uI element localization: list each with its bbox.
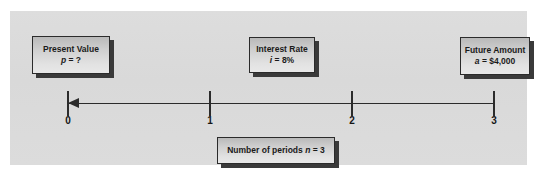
tick-label-3: 3 <box>484 115 504 126</box>
interest-rate-title: Interest Rate <box>256 44 308 55</box>
interest-rate-value: 8% <box>282 55 294 65</box>
present-value-equation: p = ? <box>61 55 81 66</box>
present-value-box: Present Value p = ? <box>32 36 110 74</box>
future-amount-title: Future Amount <box>465 45 526 56</box>
timeline-axis <box>67 103 493 104</box>
tick-mark-2 <box>351 91 353 116</box>
interest-rate-relation: = <box>272 55 282 65</box>
interest-rate-box: Interest Rate i = 8% <box>249 37 315 73</box>
number-of-periods-relation: = <box>310 145 320 155</box>
future-amount-box: Future Amount a = $4,000 <box>460 37 530 75</box>
tick-mark-3 <box>493 91 495 116</box>
number-of-periods-equation: Number of periods n = 3 <box>227 145 325 156</box>
present-value-value: ? <box>76 55 81 65</box>
present-value-title: Present Value <box>43 44 99 55</box>
tick-label-0: 0 <box>58 115 78 126</box>
tick-mark-1 <box>209 91 211 116</box>
number-of-periods-value: 3 <box>320 145 325 155</box>
present-value-relation: = <box>66 55 76 65</box>
figure-panel: Present Value p = ? Interest Rate i = 8%… <box>10 11 527 165</box>
number-of-periods-label: Number of periods <box>227 145 305 155</box>
future-amount-relation: = <box>480 56 490 66</box>
future-amount-value: $4,000 <box>489 56 515 66</box>
tick-mark-0 <box>67 91 69 116</box>
tick-label-2: 2 <box>342 115 362 126</box>
future-amount-equation: a = $4,000 <box>475 56 515 67</box>
tick-label-1: 1 <box>200 115 220 126</box>
interest-rate-equation: i = 8% <box>270 55 294 66</box>
left-arrow-icon <box>68 98 79 108</box>
number-of-periods-box: Number of periods n = 3 <box>217 137 335 164</box>
timeline-figure: Present Value p = ? Interest Rate i = 8%… <box>0 0 537 176</box>
